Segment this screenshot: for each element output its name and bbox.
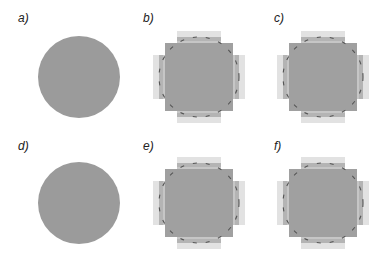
pixelated-disk-f — [277, 157, 369, 249]
disk-d — [38, 162, 120, 244]
pixelated-disk-e — [153, 157, 245, 249]
figure-canvas — [0, 0, 384, 258]
disk-a — [38, 36, 120, 118]
pixelated-disk-c — [277, 31, 369, 123]
pixelated-disk-b — [153, 31, 245, 123]
